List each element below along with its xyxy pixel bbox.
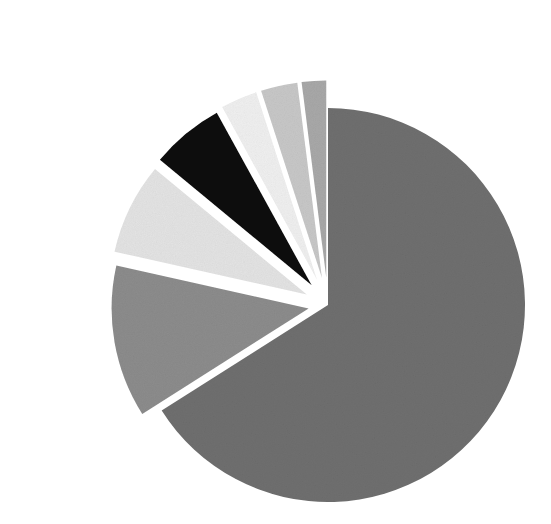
pie-chart-canvas bbox=[0, 0, 551, 524]
pie-chart-figure bbox=[0, 0, 551, 524]
